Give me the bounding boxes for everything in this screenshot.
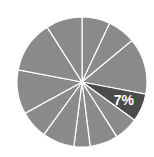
highlighted-slice-label: 7% — [114, 92, 135, 108]
pie-chart: 7% — [0, 0, 154, 157]
pie-slices — [17, 17, 147, 147]
